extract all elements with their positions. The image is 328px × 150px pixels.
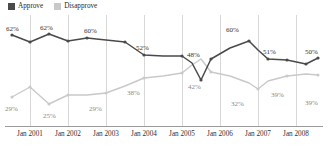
data-label-disapprove: 29% [89, 106, 102, 113]
x-tick-label: Jan 2005 [169, 131, 195, 138]
approval-trend-chart: Approve Disapprove [0, 0, 328, 150]
legend-label-disapprove: Disapprove [64, 3, 97, 10]
data-label-disapprove: 42% [188, 84, 201, 91]
data-label-disapprove: 32% [231, 101, 244, 108]
x-tick-label: Jan 2001 [17, 131, 43, 138]
legend-item-disapprove: Disapprove [54, 3, 97, 10]
square-swatch-icon [54, 3, 61, 10]
series-approve [10, 32, 319, 81]
square-swatch-icon [8, 3, 15, 10]
data-label-approve: 50% [305, 49, 318, 56]
data-label-approve: 60% [84, 28, 97, 35]
data-label-disapprove: 25% [43, 113, 56, 120]
legend-label-approve: Approve [18, 3, 43, 10]
x-axis-baseline [5, 126, 323, 127]
x-tick-label: Jan 2006 [207, 131, 233, 138]
data-label-disapprove: 39% [305, 100, 318, 107]
x-tick-label: Jan 2008 [283, 131, 309, 138]
chart-legend: Approve Disapprove [8, 1, 97, 13]
data-label-disapprove: 29% [5, 106, 18, 113]
x-tick-label: Jan 2002 [55, 131, 81, 138]
legend-item-approve: Approve [8, 3, 43, 10]
data-label-approve: 48% [187, 52, 200, 59]
data-label-approve: 60% [226, 27, 239, 34]
x-tick-label: Jan 2004 [131, 131, 157, 138]
data-label-approve: 51% [263, 49, 276, 56]
x-axis-labels: Jan 2001 Jan 2002 Jan 2003 Jan 2004 Jan … [0, 131, 328, 145]
data-label-disapprove: 38% [127, 90, 140, 97]
gridlines [31, 15, 297, 126]
data-label-disapprove: 39% [271, 92, 284, 99]
x-tick-label: Jan 2003 [93, 131, 119, 138]
x-tick-label: Jan 2007 [245, 131, 271, 138]
data-label-approve: 62% [6, 26, 19, 33]
data-label-approve: 52% [136, 45, 149, 52]
series-approve-points [10, 32, 319, 81]
data-label-approve: 62% [40, 25, 53, 32]
